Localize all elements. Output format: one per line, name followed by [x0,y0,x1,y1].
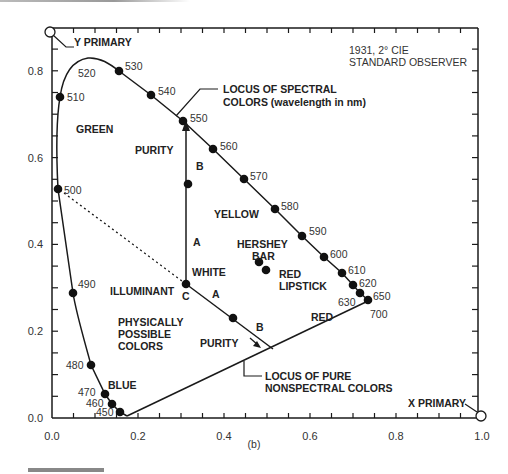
svg-text:A: A [193,236,201,248]
svg-text:610: 610 [348,264,366,276]
svg-text:550: 550 [190,112,208,124]
svg-text:0.2: 0.2 [130,430,145,442]
x-primary-marker [476,411,486,421]
svg-text:530: 530 [125,60,143,72]
svg-text:460: 460 [86,397,104,409]
svg-text:C: C [182,290,190,302]
dominant-wavelength-dotted-line [60,190,186,284]
y-axis-labels: 0.0 0.2 0.4 0.6 0.8 [28,65,43,424]
annotations: Y PRIMARY X PRIMARY 1931, 2° CIE STANDAR… [74,36,467,450]
svg-text:470: 470 [78,386,96,398]
svg-text:POSSIBLE: POSSIBLE [118,328,171,340]
svg-text:STANDARD OBSERVER: STANDARD OBSERVER [349,56,467,68]
purity-lower-point [229,314,238,323]
red-lipstick-point [262,266,271,275]
wavelength-labels: 450 460 470 480 490 500 510 520 530 540 … [64,60,391,418]
svg-text:NONSPECTRAL COLORS: NONSPECTRAL COLORS [265,382,393,394]
svg-text:LOCUS OF SPECTRAL: LOCUS OF SPECTRAL [223,83,337,95]
svg-text:0.6: 0.6 [28,152,43,164]
svg-text:B: B [196,160,204,172]
svg-text:650: 650 [373,290,391,302]
svg-text:570: 570 [250,170,268,182]
svg-text:480: 480 [66,359,84,371]
cie-chromaticity-chart: 0.0 0.2 0.4 0.6 0.8 1.0 0.0 0.2 0.4 0.6 … [0,0,508,474]
svg-text:B: B [256,321,264,333]
svg-text:500: 500 [64,184,82,196]
svg-text:LIPSTICK: LIPSTICK [279,280,327,292]
svg-text:1.0: 1.0 [474,430,489,442]
svg-text:0.2: 0.2 [28,325,43,337]
spectral-points [54,67,373,417]
svg-text:600: 600 [330,248,348,260]
x-axis-labels: 0.0 0.2 0.4 0.6 0.8 1.0 [44,430,489,442]
illuminant-c-point [182,280,191,289]
svg-text:0.8: 0.8 [28,65,43,77]
svg-text:LOCUS OF PURE: LOCUS OF PURE [265,370,351,382]
svg-text:COLORS: COLORS [118,340,163,352]
svg-text:0.4: 0.4 [28,238,43,250]
svg-text:BAR: BAR [252,250,275,262]
svg-text:700: 700 [370,308,388,320]
y-primary-marker [45,27,55,37]
svg-text:590: 590 [309,225,327,237]
svg-text:A: A [212,288,220,300]
svg-text:520: 520 [78,67,96,79]
svg-text:540: 540 [158,85,176,97]
svg-text:1931, 2° CIE: 1931, 2° CIE [349,44,409,56]
svg-text:0.8: 0.8 [388,430,403,442]
svg-text:490: 490 [78,278,96,290]
nonspectral-locus-leader [244,361,262,376]
svg-text:GREEN: GREEN [76,123,113,135]
svg-text:630: 630 [338,296,356,308]
svg-text:ILLUMINANT: ILLUMINANT [110,285,175,297]
svg-text:RED: RED [311,311,334,323]
svg-text:580: 580 [281,200,299,212]
purity-upper-point [184,180,193,189]
svg-text:PURITY: PURITY [135,144,174,156]
svg-text:0.4: 0.4 [216,430,231,442]
svg-text:0.0: 0.0 [28,412,43,424]
svg-text:PHYSICALLY: PHYSICALLY [118,316,184,328]
svg-text:COLORS (wavelength in nm): COLORS (wavelength in nm) [223,96,366,108]
svg-text:PURITY: PURITY [200,337,239,349]
svg-text:620: 620 [359,277,377,289]
svg-text:Y PRIMARY: Y PRIMARY [74,36,132,48]
svg-text:BLUE: BLUE [108,379,137,391]
svg-text:0.6: 0.6 [302,430,317,442]
x-primary-leader [465,404,477,412]
svg-text:YELLOW: YELLOW [214,208,259,220]
y-primary-leader [53,35,74,47]
svg-text:HERSHEY: HERSHEY [237,238,288,250]
svg-text:X PRIMARY: X PRIMARY [408,397,466,409]
svg-text:0.0: 0.0 [44,430,59,442]
svg-text:510: 510 [67,91,85,103]
decorative-bar [28,468,104,472]
svg-text:560: 560 [220,140,238,152]
svg-text:WHITE: WHITE [192,266,226,278]
svg-text:RED: RED [279,268,302,280]
svg-text:(b): (b) [248,438,261,450]
